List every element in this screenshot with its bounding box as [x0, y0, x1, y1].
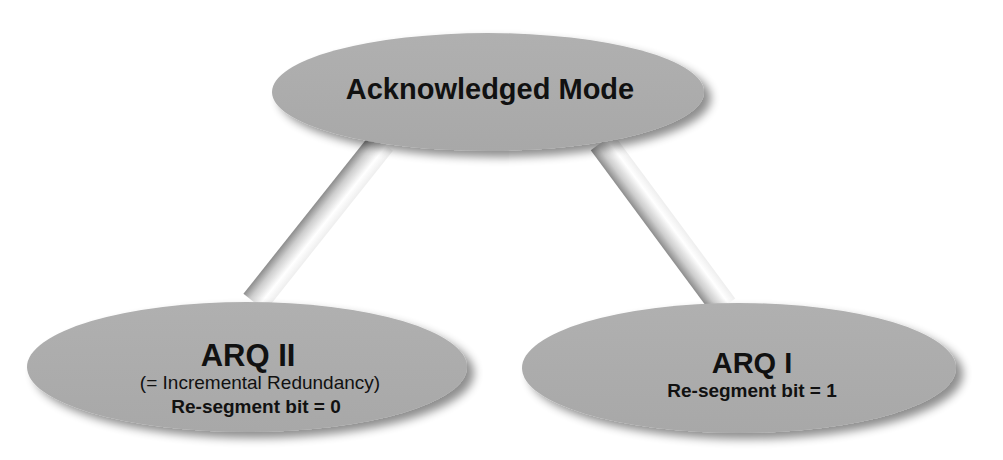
arq-ii-title: ARQ II: [201, 340, 296, 371]
connector-right: [591, 134, 735, 315]
arq-i-title: ARQ I: [712, 349, 793, 378]
arq-i-detail: Re-segment bit = 1: [667, 381, 836, 400]
connector-left: [243, 133, 393, 311]
arq-ii-subtitle: (= Incremental Redundancy): [140, 373, 380, 392]
arq-ii-detail: Re-segment bit = 0: [171, 397, 340, 416]
root-title: Acknowledged Mode: [346, 75, 634, 104]
